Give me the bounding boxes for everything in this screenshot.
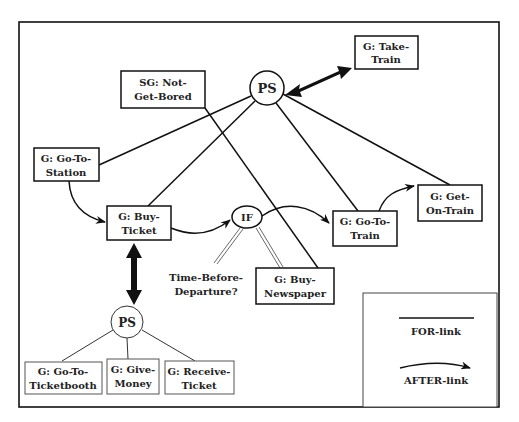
svg-text:Money: Money: [114, 378, 152, 389]
svg-text:SG: Not-: SG: Not-: [139, 77, 187, 88]
goal-get-on-train: G: Get- On-Train: [418, 185, 482, 221]
goal-go-to-train: G: Go-To- Train: [333, 211, 397, 246]
legend: FOR-link AFTER-link: [363, 293, 497, 407]
goal-buy-newspaper: G: Buy- Newspaper: [256, 268, 334, 304]
goal-buy-ticket: G: Buy- Ticket: [107, 206, 171, 240]
svg-text:Time-Before-: Time-Before-: [169, 272, 243, 283]
svg-text:G: Buy-: G: Buy-: [118, 211, 159, 222]
after-link-label: AFTER-link: [403, 375, 469, 386]
goal-receive-ticket: G: Receive- Ticket: [165, 361, 234, 394]
svg-text:Train: Train: [350, 230, 380, 241]
if-node: IF: [232, 206, 262, 228]
svg-text:G: Take-: G: Take-: [363, 41, 409, 52]
svg-text:Get-Bored: Get-Bored: [134, 91, 191, 102]
ps-node-bottom: PS: [111, 306, 143, 338]
svg-text:G: Give-: G: Give-: [111, 364, 155, 375]
svg-text:Departure?: Departure?: [174, 286, 237, 297]
svg-text:G: Go-To-: G: Go-To-: [41, 153, 92, 164]
condition-label: Time-Before- Departure?: [169, 272, 243, 297]
condition-links: [214, 227, 283, 268]
svg-text:PS: PS: [118, 316, 136, 330]
svg-text:G: Receive-: G: Receive-: [168, 366, 231, 377]
goal-take-train: G: Take- Train: [355, 36, 418, 69]
svg-text:IF: IF: [241, 212, 253, 223]
goal-give-money: G: Give- Money: [107, 359, 159, 394]
ps-top-label: PS: [257, 81, 276, 96]
subgoal-not-get-bored: SG: Not- Get-Bored: [121, 71, 205, 108]
svg-text:Train: Train: [371, 54, 401, 65]
svg-text:G: Get-: G: Get-: [430, 191, 469, 202]
for-link-label: FOR-link: [411, 326, 462, 337]
svg-text:On-Train: On-Train: [426, 205, 475, 216]
svg-text:G: Go-To-: G: Go-To-: [38, 366, 89, 377]
svg-text:Station: Station: [46, 167, 87, 178]
svg-text:Newspaper: Newspaper: [264, 288, 327, 299]
svg-text:G: Go-To-: G: Go-To-: [340, 216, 391, 227]
svg-text:Ticket: Ticket: [121, 225, 157, 236]
goal-go-to-station: G: Go-To- Station: [34, 148, 99, 181]
plan-diagram: PS G: Take- Train SG: Not- Get-Bored G: …: [0, 0, 519, 422]
ps-node-top: PS: [250, 71, 284, 105]
svg-text:Ticketbooth: Ticketbooth: [29, 380, 97, 391]
svg-text:Ticket: Ticket: [181, 380, 217, 391]
goal-go-to-ticketbooth: G: Go-To- Ticketbooth: [25, 362, 102, 394]
svg-text:G: Buy-: G: Buy-: [274, 274, 315, 285]
